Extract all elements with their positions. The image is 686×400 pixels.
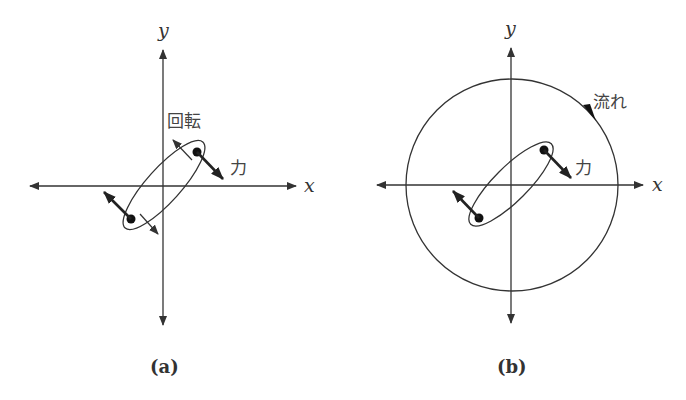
force-arrow-top: [197, 152, 223, 179]
y-axis-label: y: [504, 17, 516, 39]
x-axis-label: x: [652, 173, 663, 195]
flow-label: 流れ: [593, 92, 627, 112]
panel-a: x y 回転 力 (a): [30, 19, 315, 377]
force-arrow-bottom: [104, 192, 131, 219]
x-axis-label: x: [304, 174, 315, 196]
rotation-label: 回転: [167, 111, 201, 131]
force-arrow-bottom: [453, 191, 479, 218]
y-axis-label: y: [157, 19, 169, 41]
force-label: 力: [230, 158, 247, 178]
figure-canvas: x y 回転 力 (a) x y: [0, 0, 686, 400]
panel-b: x y 力 流れ (b): [377, 17, 663, 377]
force-label: 力: [575, 158, 592, 178]
caption-a: (a): [150, 356, 179, 377]
caption-b: (b): [497, 356, 527, 377]
ellipse-body: [113, 131, 216, 240]
